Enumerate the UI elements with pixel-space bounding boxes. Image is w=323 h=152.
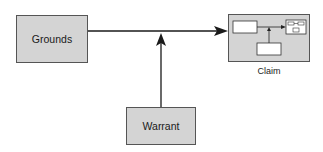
claim-box bbox=[228, 14, 310, 62]
grounds-label: Grounds bbox=[32, 33, 72, 45]
warrant-box: Warrant bbox=[126, 107, 196, 145]
grounds-box: Grounds bbox=[16, 15, 88, 63]
warrant-label: Warrant bbox=[143, 120, 180, 132]
claim-label: Claim bbox=[228, 66, 310, 76]
claim-nested-diagram-icon bbox=[229, 15, 311, 63]
